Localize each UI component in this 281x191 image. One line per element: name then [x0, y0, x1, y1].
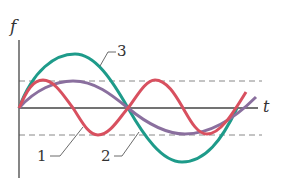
curve-2-label: 2 [101, 149, 111, 164]
x-axis-label: t [263, 99, 269, 115]
leader-1 [50, 127, 83, 156]
curve-1-label: 1 [37, 149, 47, 164]
leader-2 [114, 132, 139, 156]
curve-3-label: 3 [117, 44, 127, 59]
y-axis-label: f [10, 18, 16, 35]
leader-3 [100, 52, 116, 66]
